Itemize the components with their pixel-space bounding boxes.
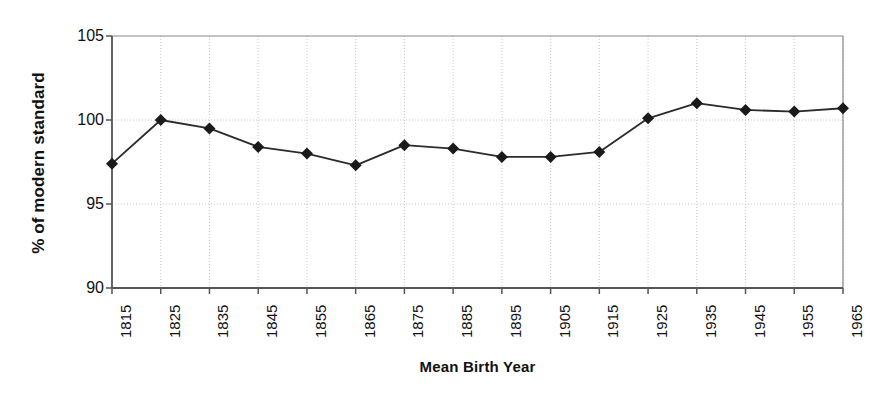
- plot-area: [0, 0, 891, 393]
- chart-container: % of modern standard Mean Birth Year 909…: [0, 0, 891, 393]
- plot-background: [112, 36, 843, 288]
